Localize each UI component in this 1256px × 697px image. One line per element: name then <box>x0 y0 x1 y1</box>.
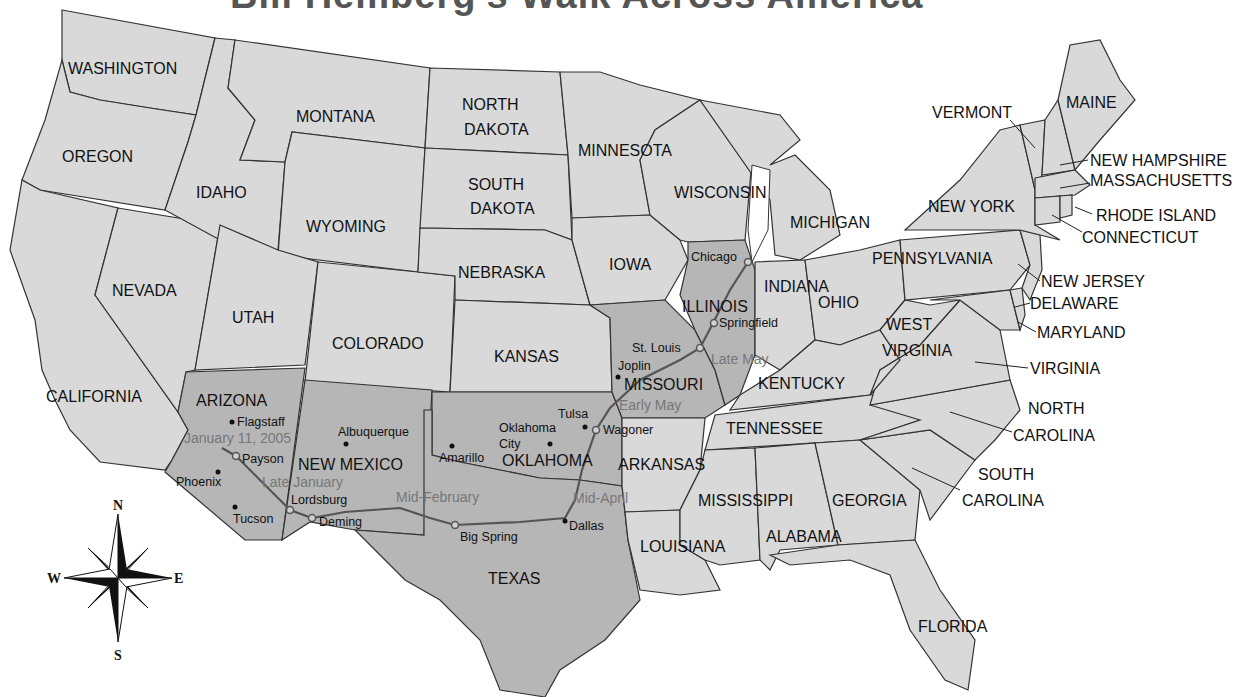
city-amarillo: Amarillo <box>439 451 484 465</box>
compass-north: N <box>113 498 123 513</box>
label-kentucky: KENTUCKY <box>758 375 845 392</box>
label-delaware: DELAWARE <box>1030 295 1119 312</box>
city-lordsburg: Lordsburg <box>291 493 347 507</box>
label-wisconsin: WISCONSIN <box>674 184 766 201</box>
label-north-dakota-2: DAKOTA <box>464 121 529 138</box>
city-albuquerque: Albuquerque <box>338 425 409 439</box>
label-idaho: IDAHO <box>196 184 247 201</box>
waypoint-deming <box>309 515 316 522</box>
compass-east: E <box>174 571 183 586</box>
waypoint-big-spring <box>452 522 459 529</box>
label-ohio: OHIO <box>818 294 859 311</box>
label-south-dakota-1: SOUTH <box>468 176 524 193</box>
state-south-dakota <box>420 148 572 240</box>
state-florida <box>770 540 975 690</box>
label-new-york: NEW YORK <box>928 198 1015 215</box>
label-vermont: VERMONT <box>932 104 1012 121</box>
city-oklahoma-city-1: Oklahoma <box>499 421 556 435</box>
dot-tulsa <box>583 425 588 430</box>
city-flagstaff: Flagstaff <box>237 415 285 429</box>
waypoint-chicago <box>745 259 752 266</box>
label-washington: WASHINGTON <box>68 60 177 77</box>
label-kansas: KANSAS <box>494 348 559 365</box>
date-start: January 11, 2005 <box>184 430 291 446</box>
label-south-carolina-2: CAROLINA <box>962 492 1044 509</box>
label-arkansas: ARKANSAS <box>618 456 705 473</box>
city-joplin: Joplin <box>618 359 651 373</box>
label-connecticut: CONNECTICUT <box>1082 229 1199 246</box>
city-payson: Payson <box>242 452 284 466</box>
compass-south: S <box>114 648 122 663</box>
waypoint-st-louis <box>697 345 704 352</box>
label-north-dakota-1: NORTH <box>462 96 519 113</box>
waypoint-payson <box>233 453 240 460</box>
dot-oklahoma-city <box>548 442 553 447</box>
compass-west: W <box>47 571 61 586</box>
label-south-carolina-1: SOUTH <box>978 466 1034 483</box>
label-oklahoma: OKLAHOMA <box>502 452 593 469</box>
label-iowa: IOWA <box>609 256 651 273</box>
city-tucson: Tucson <box>233 512 274 526</box>
dot-flagstaff <box>230 420 235 425</box>
waypoint-lordsburg <box>287 507 294 514</box>
date-early-may: Early May <box>619 397 681 413</box>
label-nebraska: NEBRASKA <box>458 264 545 281</box>
label-pennsylvania: PENNSYLVANIA <box>872 250 993 267</box>
label-montana: MONTANA <box>296 108 375 125</box>
city-dallas: Dallas <box>569 519 604 533</box>
city-big-spring: Big Spring <box>460 530 518 544</box>
label-michigan: MICHIGAN <box>790 214 870 231</box>
state-kansas <box>450 300 612 392</box>
city-deming: Deming <box>319 515 362 529</box>
label-west-virginia-2: VIRGINIA <box>882 342 953 359</box>
dot-dallas <box>563 519 568 524</box>
date-mid-april: Mid-April <box>573 490 628 506</box>
label-mississippi: MISSISSIPPI <box>698 492 793 509</box>
state-wyoming <box>278 132 425 272</box>
label-georgia: GEORGIA <box>832 492 907 509</box>
label-arizona: ARIZONA <box>196 392 267 409</box>
us-route-map: WASHINGTON OREGON CALIFORNIA NEVADA IDAH… <box>0 0 1256 697</box>
label-illinois: ILLINOIS <box>682 298 748 315</box>
city-oklahoma-city-2: City <box>499 437 521 451</box>
city-springfield: Springfield <box>719 316 778 330</box>
dot-albuquerque <box>344 442 349 447</box>
label-california: CALIFORNIA <box>46 388 142 405</box>
label-new-jersey: NEW JERSEY <box>1041 273 1145 290</box>
label-west-virginia-1: WEST <box>886 316 932 333</box>
dot-amarillo <box>450 444 455 449</box>
label-rhode-island: RHODE ISLAND <box>1096 207 1216 224</box>
state-rhode-island <box>1060 195 1072 218</box>
label-louisiana: LOUISIANA <box>640 538 726 555</box>
state-colorado <box>305 262 455 392</box>
city-wagoner: Wagoner <box>603 423 653 437</box>
dot-tucson <box>233 505 238 510</box>
label-virginia: VIRGINIA <box>1030 360 1101 377</box>
date-late-may: Late May <box>711 351 769 367</box>
label-oregon: OREGON <box>62 148 133 165</box>
dot-phoenix <box>216 470 221 475</box>
label-colorado: COLORADO <box>332 335 424 352</box>
label-minnesota: MINNESOTA <box>578 142 672 159</box>
waypoint-wagoner <box>593 427 600 434</box>
label-wyoming: WYOMING <box>306 218 386 235</box>
dot-joplin <box>616 375 621 380</box>
city-tulsa: Tulsa <box>558 407 588 421</box>
lake-michigan <box>748 165 770 262</box>
label-massachusetts: MASSACHUSETTS <box>1090 172 1232 189</box>
label-texas: TEXAS <box>488 570 540 587</box>
label-alabama: ALABAMA <box>766 528 842 545</box>
label-maryland: MARYLAND <box>1037 324 1126 341</box>
date-mid-february: Mid-February <box>396 489 479 505</box>
label-south-dakota-2: DAKOTA <box>470 200 535 217</box>
label-new-hampshire: NEW HAMPSHIRE <box>1090 152 1227 169</box>
waypoint-springfield <box>711 320 718 327</box>
label-north-carolina-1: NORTH <box>1028 400 1085 417</box>
label-tennessee: TENNESSEE <box>726 420 823 437</box>
label-maine: MAINE <box>1066 94 1117 111</box>
label-missouri: MISSOURI <box>624 376 703 393</box>
label-utah: UTAH <box>232 309 274 326</box>
city-phoenix: Phoenix <box>176 475 222 489</box>
city-st-louis: St. Louis <box>632 341 681 355</box>
label-north-carolina-2: CAROLINA <box>1013 427 1095 444</box>
